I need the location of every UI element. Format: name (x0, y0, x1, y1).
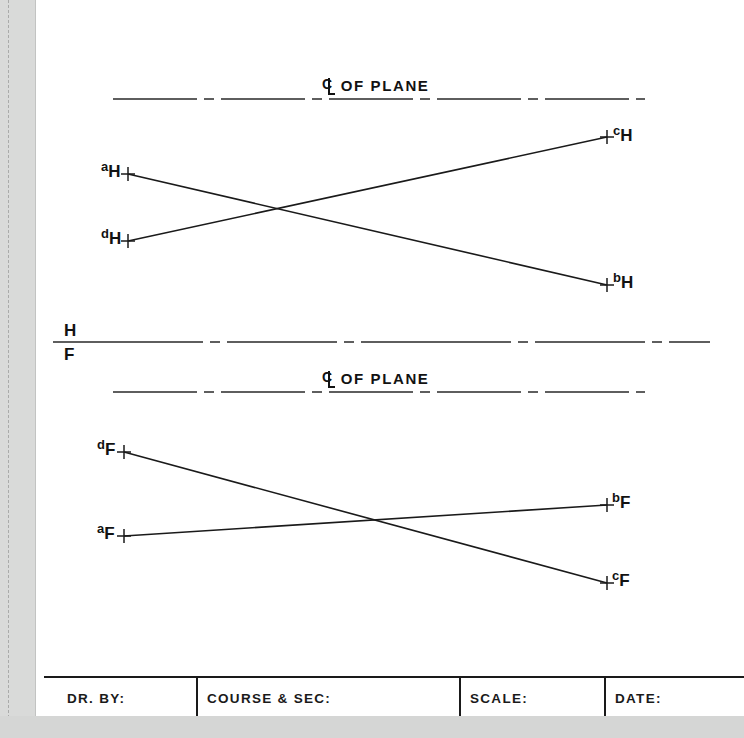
tick-a-h (121, 167, 135, 181)
fold-line-letter-f: F (64, 345, 74, 365)
tick-a-f (117, 529, 131, 543)
tick-d-h (121, 234, 135, 248)
point-label-b-h-letter: b (613, 270, 621, 285)
point-label-d-h-letter: d (101, 226, 109, 241)
tick-b-h (600, 278, 614, 292)
point-label-d-f: dF (97, 438, 115, 459)
drawing-canvas (0, 0, 744, 738)
point-label-d-f-letter: d (97, 437, 105, 452)
tick-d-f (117, 445, 131, 459)
point-label-d-f-view: F (105, 440, 115, 459)
point-label-c-f-view: F (619, 571, 629, 590)
point-label-c-f: cF (612, 569, 630, 590)
centerline-caption-lower-text: OF PLANE (341, 370, 430, 387)
fold-line-letter-h: H (64, 321, 76, 341)
line-d-c-horizontal (128, 137, 607, 241)
point-label-a-f: aF (97, 522, 115, 543)
title-block-field-date[interactable]: DATE: (615, 691, 662, 706)
line-a-b-frontal (124, 505, 607, 536)
scan-edge-bottom (0, 716, 744, 738)
centerline-caption-lower: C OF PLANE (322, 371, 429, 386)
centerline-symbol-lower: C (322, 371, 335, 386)
title-block-field-scale[interactable]: SCALE: (470, 691, 528, 706)
point-label-a-f-view: F (104, 524, 114, 543)
point-label-d-h: dH (101, 227, 121, 248)
centerline-symbol-upper: C (322, 78, 335, 93)
title-block-field-course-sec[interactable]: COURSE & SEC: (207, 691, 331, 706)
tick-c-h (600, 130, 614, 144)
point-label-b-f-view: F (620, 493, 630, 512)
point-label-b-h-view: H (621, 273, 633, 292)
point-label-c-h-view: H (620, 126, 632, 145)
title-block-field-drawn-by[interactable]: DR. BY: (67, 691, 125, 706)
line-d-c-frontal (124, 452, 607, 583)
point-label-a-h-view: H (108, 162, 120, 181)
point-label-c-h: cH (613, 124, 633, 145)
line-a-b-horizontal (128, 174, 607, 285)
point-label-d-h-view: H (109, 229, 121, 248)
centerline-caption-upper: C OF PLANE (322, 78, 429, 93)
point-label-b-f: bF (612, 491, 630, 512)
point-label-b-f-letter: b (612, 490, 620, 505)
point-label-b-h: bH (613, 271, 633, 292)
drawing-sheet: C OF PLANE C OF PLANE H F aH dH cH bH dF… (0, 0, 744, 738)
centerline-caption-upper-text: OF PLANE (341, 77, 430, 94)
point-label-a-h: aH (101, 160, 121, 181)
